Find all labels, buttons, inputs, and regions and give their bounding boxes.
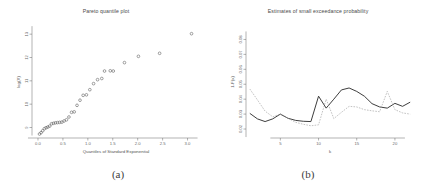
panel-a-x-tick-label: 1.5 <box>110 141 116 146</box>
panel-b-y-tick-label: 0.05 <box>238 79 243 88</box>
panel-b-x-axis-label: k <box>329 149 332 154</box>
panel-a-x-tick-label: 2.5 <box>160 141 166 146</box>
scatter-point <box>109 69 112 72</box>
panel-b-y-axis-label: 1-F(x) <box>230 76 235 88</box>
scatter-point <box>68 116 71 119</box>
pareto-quantile-scatter-chart: 0.00.51.01.52.02.53.0910111213Quantiles … <box>0 0 212 170</box>
scatter-point <box>137 55 140 58</box>
caption-row: (a) (b) <box>0 168 424 192</box>
scatter-point <box>88 88 91 91</box>
caption-a: (a) <box>88 168 148 180</box>
panel-a-y-tick-label: 13 <box>24 31 29 36</box>
panel-a-x-tick-label: 0.0 <box>35 141 41 146</box>
panel-b-x-tick-label: 10 <box>316 141 321 146</box>
scatter-point <box>123 61 126 64</box>
panel-b-x-tick-label: 20 <box>393 141 398 146</box>
panel-b-y-tick-label: 0.03 <box>238 109 243 118</box>
panel-a-y-axis-label: log(X) <box>16 76 21 88</box>
dashed-estimate-line <box>250 89 410 126</box>
panel-b-y-tick-label: 0.06 <box>238 65 243 74</box>
scatter-point <box>190 32 193 35</box>
scatter-point <box>112 70 115 73</box>
panel-a-x-tick-label: 1.0 <box>85 141 91 146</box>
panel-a-x-axis-label: Quantiles of Standard Exponential <box>83 149 150 154</box>
panel-b-y-tick-label: 0.08 <box>238 35 243 44</box>
panel-a-y-tick-label: 11 <box>24 78 29 83</box>
panel-b-y-tick-label: 0.07 <box>238 50 243 59</box>
panel-b-y-tick-label: 0.04 <box>238 94 243 103</box>
panel-b-x-tick-label: 5 <box>279 141 282 146</box>
two-panel-figure: Pareto quantile plot 0.00.51.01.52.02.53… <box>0 0 424 196</box>
scatter-point <box>70 111 73 114</box>
panel-b-y-tick-label: 0.02 <box>238 124 243 133</box>
panel-pareto-quantile-plot: Pareto quantile plot 0.00.51.01.52.02.53… <box>0 0 212 170</box>
scatter-point <box>76 104 79 107</box>
scatter-point <box>103 70 106 73</box>
scatter-point <box>65 118 68 121</box>
scatter-point <box>92 82 95 85</box>
panel-a-x-tick-label: 0.5 <box>60 141 66 146</box>
panel-a-y-tick-label: 10 <box>24 101 29 106</box>
exceedance-probability-line-chart: 51015200.020.030.040.050.060.070.08k1-F(… <box>212 0 424 170</box>
scatter-point <box>82 94 85 97</box>
panel-a-x-tick-label: 2.0 <box>135 141 141 146</box>
panel-a-y-tick-label: 9 <box>24 126 29 129</box>
scatter-point <box>100 77 103 80</box>
scatter-point <box>96 78 99 81</box>
caption-b: (b) <box>278 168 338 180</box>
scatter-point <box>85 93 88 96</box>
scatter-point <box>73 111 76 114</box>
scatter-point <box>79 99 82 102</box>
scatter-points <box>38 32 193 135</box>
panel-a-x-tick-label: 3.0 <box>185 141 191 146</box>
scatter-point <box>158 52 161 55</box>
panel-a-y-tick-label: 12 <box>24 55 29 60</box>
panel-exceedance-probability-plot: Estimates of small exceedance probabilit… <box>212 0 424 170</box>
panel-b-x-tick-label: 15 <box>354 141 359 146</box>
